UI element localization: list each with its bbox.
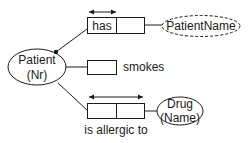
fact-reading-smokes: smokes [123, 60, 164, 74]
role-box-smokes[interactable] [88, 61, 117, 75]
fact-type-has[interactable]: has [88, 12, 145, 34]
entity-patient[interactable]: Patient (Nr) [8, 49, 66, 85]
fact-type-allergic[interactable]: is allergic to [84, 97, 148, 137]
fact-reading-allergic: is allergic to [84, 123, 148, 137]
fact-reading-has: has [92, 19, 111, 33]
connector-patient-has [56, 29, 87, 52]
value-type-patientname[interactable]: PatientName [162, 16, 240, 37]
mandatory-role-dot [54, 50, 58, 54]
entity-drug[interactable]: Drug (Name) [157, 97, 203, 125]
entity-drug-ref: (Name) [160, 111, 200, 125]
value-type-patientname-label: PatientName [166, 19, 236, 33]
role-box-allergic-1[interactable] [88, 104, 117, 119]
role-box-allergic-2[interactable] [117, 104, 145, 119]
orm-diagram: Patient (Nr) has PatientName smokes is a… [0, 0, 249, 143]
entity-patient-name: Patient [18, 53, 56, 67]
role-box-has-2[interactable] [117, 18, 145, 34]
fact-type-smokes[interactable]: smokes [88, 60, 165, 75]
entity-drug-name: Drug [167, 97, 193, 111]
entity-patient-ref: (Nr) [27, 68, 48, 82]
connector-patient-allergic [58, 83, 87, 110]
